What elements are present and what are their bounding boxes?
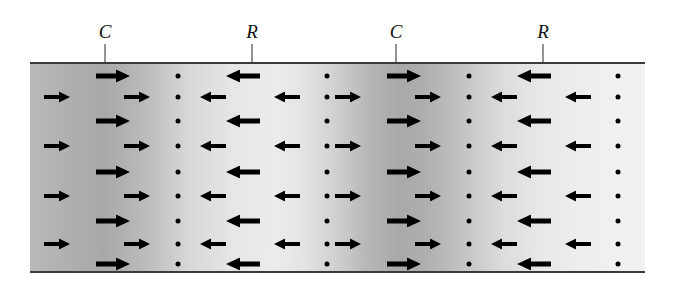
displacement-arrow-right-icon <box>415 141 441 152</box>
displacement-arrow-left-icon <box>517 166 551 179</box>
displacement-arrow-left-icon <box>274 239 300 250</box>
displacement-arrow-left-icon <box>565 239 591 250</box>
particle-dot <box>176 170 181 175</box>
particle-dot <box>176 219 181 224</box>
displacement-arrow-right-icon <box>387 166 421 179</box>
band-top-rule <box>30 62 645 64</box>
particle-dot <box>325 194 330 199</box>
displacement-arrow-left-icon <box>565 191 591 202</box>
particle-dot <box>467 242 472 247</box>
particle-dot <box>616 219 621 224</box>
displacement-arrow-left-icon <box>226 258 260 271</box>
particle-dot <box>176 194 181 199</box>
particle-dot <box>616 95 621 100</box>
displacement-arrow-right-icon <box>387 70 421 83</box>
label-compression: C <box>390 22 403 41</box>
particle-dot <box>325 119 330 124</box>
label-rarefaction: R <box>246 22 258 41</box>
particle-dot <box>325 74 330 79</box>
displacement-arrow-left-icon <box>517 258 551 271</box>
displacement-arrow-right-icon <box>335 191 361 202</box>
medium-band <box>30 62 645 273</box>
particle-dot <box>467 170 472 175</box>
displacement-arrow-left-icon <box>200 239 226 250</box>
displacement-arrow-right-icon <box>96 258 130 271</box>
particle-dot <box>176 262 181 267</box>
particle-dot <box>616 194 621 199</box>
particle-dot <box>467 95 472 100</box>
label-compression: C <box>99 22 112 41</box>
displacement-arrow-left-icon <box>226 115 260 128</box>
displacement-arrow-right-icon <box>44 141 70 152</box>
displacement-arrow-left-icon <box>226 166 260 179</box>
particle-dot <box>616 242 621 247</box>
displacement-arrow-left-icon <box>517 115 551 128</box>
displacement-arrow-right-icon <box>96 70 130 83</box>
displacement-arrow-right-icon <box>335 92 361 103</box>
leader-tick-rarefaction <box>252 44 253 62</box>
leader-tick-compression <box>396 44 397 62</box>
displacement-arrow-right-icon <box>124 239 150 250</box>
displacement-arrow-left-icon <box>565 92 591 103</box>
displacement-arrow-right-icon <box>335 239 361 250</box>
particle-dot <box>616 119 621 124</box>
displacement-arrow-right-icon <box>124 92 150 103</box>
particle-dot <box>176 144 181 149</box>
displacement-arrow-right-icon <box>415 191 441 202</box>
wave-diagram-figure: CRCR <box>0 0 673 287</box>
particle-dot <box>325 95 330 100</box>
particle-dot <box>325 242 330 247</box>
displacement-arrow-right-icon <box>415 239 441 250</box>
displacement-arrow-left-icon <box>200 191 226 202</box>
displacement-arrow-right-icon <box>96 166 130 179</box>
displacement-arrow-right-icon <box>387 258 421 271</box>
particle-dot <box>325 219 330 224</box>
leader-tick-compression <box>105 44 106 62</box>
displacement-arrow-left-icon <box>274 141 300 152</box>
particle-dot <box>467 144 472 149</box>
band-bottom-rule <box>30 271 645 273</box>
particle-dot <box>616 144 621 149</box>
displacement-arrow-right-icon <box>96 215 130 228</box>
displacement-arrow-right-icon <box>44 239 70 250</box>
displacement-arrow-left-icon <box>226 215 260 228</box>
displacement-arrow-left-icon <box>491 92 517 103</box>
displacement-arrow-left-icon <box>200 141 226 152</box>
particle-dot <box>176 95 181 100</box>
displacement-arrow-left-icon <box>491 141 517 152</box>
displacement-arrow-left-icon <box>226 70 260 83</box>
displacement-arrow-left-icon <box>491 191 517 202</box>
particle-dot <box>467 219 472 224</box>
displacement-arrow-right-icon <box>124 191 150 202</box>
particle-dot <box>467 194 472 199</box>
displacement-arrow-left-icon <box>491 239 517 250</box>
displacement-arrow-left-icon <box>274 191 300 202</box>
displacement-arrow-left-icon <box>200 92 226 103</box>
particle-dot <box>325 144 330 149</box>
particle-dot <box>176 119 181 124</box>
particle-dot <box>176 242 181 247</box>
displacement-arrow-left-icon <box>517 215 551 228</box>
displacement-arrow-right-icon <box>44 191 70 202</box>
displacement-arrow-right-icon <box>96 115 130 128</box>
label-rarefaction: R <box>537 22 549 41</box>
particle-dot <box>467 74 472 79</box>
displacement-arrow-left-icon <box>517 70 551 83</box>
displacement-arrow-left-icon <box>274 92 300 103</box>
displacement-arrow-right-icon <box>387 115 421 128</box>
leader-tick-rarefaction <box>543 44 544 62</box>
displacement-arrow-right-icon <box>387 215 421 228</box>
particle-dot <box>325 262 330 267</box>
particle-dot <box>616 170 621 175</box>
particle-dot <box>467 119 472 124</box>
particle-dot <box>176 74 181 79</box>
particle-dot <box>325 170 330 175</box>
displacement-arrow-right-icon <box>415 92 441 103</box>
displacement-arrow-right-icon <box>44 92 70 103</box>
particle-dot <box>616 262 621 267</box>
displacement-arrow-right-icon <box>124 141 150 152</box>
displacement-arrow-left-icon <box>565 141 591 152</box>
particle-dot <box>616 74 621 79</box>
particle-dot <box>467 262 472 267</box>
displacement-arrow-right-icon <box>335 141 361 152</box>
